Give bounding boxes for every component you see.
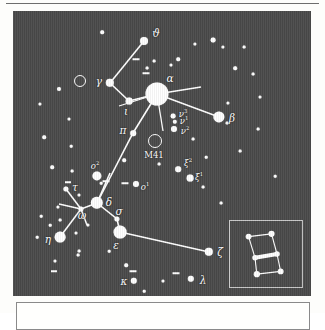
inset-star [254, 271, 260, 277]
field-star [50, 165, 54, 169]
field-star [252, 73, 255, 76]
star-nu3 [171, 114, 176, 119]
field-star [54, 260, 57, 263]
field-star [233, 66, 237, 70]
star-xi2 [175, 166, 181, 172]
field-star [146, 67, 149, 70]
label-nu1: ν1 [180, 116, 189, 125]
star-pi [130, 130, 136, 136]
label-tau: τ [72, 182, 78, 193]
field-star [78, 194, 81, 197]
caption-box [16, 302, 310, 330]
label-omega: ω [78, 210, 87, 221]
field-star [192, 138, 195, 141]
sky-panel: ϑγιαβπδεσηζκλτων3ν1ν2ξ2ξ1ο2ο1M41 [13, 11, 311, 296]
field-star [71, 170, 74, 173]
field-star [239, 150, 242, 153]
field-star [259, 96, 262, 99]
label-kappa: κ [121, 276, 128, 287]
label-pi: π [120, 125, 127, 136]
inset-star [274, 251, 280, 257]
star-iota [126, 98, 133, 105]
field-star [108, 250, 111, 253]
inset-line [272, 234, 278, 254]
label-m41-cluster: M41 [144, 151, 164, 160]
field-star [176, 57, 180, 61]
field-star [205, 156, 208, 159]
double-star-marker [173, 272, 180, 274]
constellation-line [110, 41, 144, 83]
double-star-marker [103, 180, 110, 182]
orion-belt [255, 254, 277, 258]
inset-star [278, 268, 284, 274]
label-nu2: ν2 [181, 126, 190, 135]
inset-line [249, 234, 272, 237]
label-gamma: γ [96, 76, 102, 87]
m41-cluster [148, 134, 162, 148]
field-star [36, 236, 39, 239]
top-divider [6, 3, 319, 4]
field-star [40, 215, 43, 218]
field-star [220, 202, 223, 205]
field-star [75, 232, 78, 235]
field-star [274, 175, 277, 178]
inset-line [257, 271, 281, 274]
field-star [100, 30, 104, 34]
label-beta: β [229, 113, 235, 124]
orion-inset-box [229, 220, 303, 288]
field-star [57, 87, 61, 91]
field-star [78, 250, 81, 253]
field-star [257, 128, 260, 131]
star-eta [55, 232, 66, 243]
field-star [42, 135, 46, 139]
field-star [153, 60, 156, 63]
orion-inset-figure [230, 221, 302, 287]
double-star-marker [65, 181, 71, 183]
field-star [49, 224, 52, 227]
double-star-marker [51, 270, 57, 272]
double-star-marker [143, 72, 150, 74]
label-zeta: ζ [217, 247, 223, 258]
label-xi1: ξ1 [195, 172, 203, 181]
label-eta: η [45, 234, 51, 245]
star-xi1 [187, 175, 194, 182]
field-star [162, 280, 165, 283]
field-star [70, 145, 73, 148]
constellation-line [120, 232, 209, 252]
double-star-marker [133, 58, 140, 60]
label-lambda: λ [200, 275, 207, 286]
label-xi2: ξ2 [184, 158, 192, 167]
double-star-marker [130, 270, 137, 272]
label-theta: ϑ [152, 28, 160, 39]
field-star [68, 118, 71, 121]
field-star [100, 182, 103, 185]
field-star [243, 46, 246, 49]
field-star [124, 263, 128, 267]
double-star-marker [122, 182, 129, 184]
label-alpha: α [166, 73, 173, 84]
inset-star [246, 234, 252, 240]
field-star [143, 290, 146, 293]
inset-star [268, 231, 274, 237]
field-star [122, 158, 126, 162]
star-theta [140, 37, 148, 45]
inset-line [249, 237, 255, 258]
field-star [77, 254, 80, 257]
cluster-ring-upper-left [74, 75, 86, 87]
star-epsilon [114, 226, 127, 239]
star-alpha [146, 83, 169, 106]
label-delta: δ [106, 197, 112, 208]
field-star [211, 38, 216, 43]
inset-star [252, 255, 258, 260]
label-omicron1: ο1 [141, 182, 149, 191]
label-iota: ι [124, 106, 128, 117]
field-star [202, 186, 205, 189]
label-sigma: σ [115, 206, 122, 217]
label-epsilon: ε [113, 240, 119, 251]
star-omicron1 [133, 181, 139, 187]
field-star [59, 219, 62, 222]
star-nu2 [171, 126, 177, 132]
label-omicron2: ο2 [91, 161, 99, 170]
field-star [170, 64, 173, 67]
